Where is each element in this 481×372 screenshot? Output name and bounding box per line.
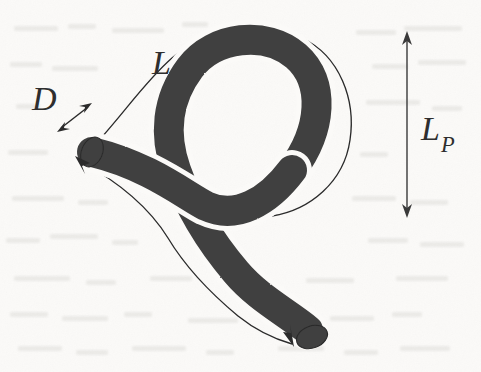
- figure-drawing: L D LP: [0, 0, 481, 372]
- figure-canvas: L D LP: [0, 0, 481, 372]
- label-arclength-L: L: [151, 44, 171, 81]
- label-LP-subscript: P: [440, 132, 455, 157]
- label-diameter-D: D: [31, 80, 57, 117]
- label-LP-base: L: [420, 110, 440, 147]
